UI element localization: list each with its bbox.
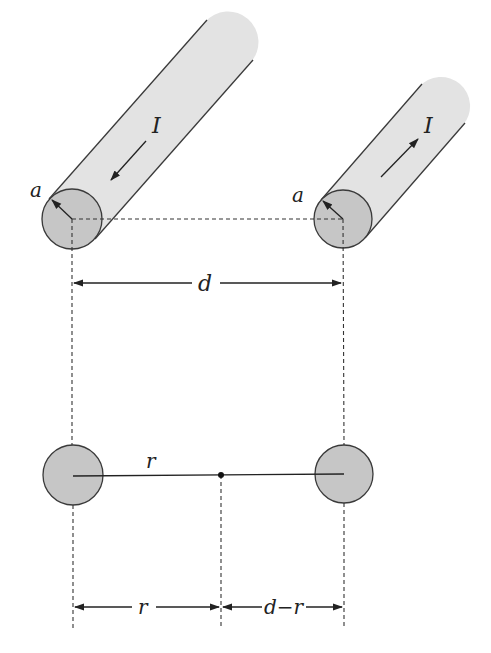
separation-dimension: d: [74, 271, 341, 296]
field-point-distance-label: r: [146, 449, 157, 473]
right-vertical-dashed-line: [343, 219, 344, 445]
cross-section-view: r: [43, 445, 373, 505]
left-current-label: I: [151, 113, 162, 138]
separation-label: d: [198, 271, 212, 296]
left-wire: I a: [30, 12, 258, 250]
bottom-right-span-label: d−r: [264, 595, 305, 619]
left-wire-cross-section: [43, 445, 103, 505]
two-wire-diagram: I a I a d r r: [0, 0, 491, 653]
center-connecting-line: [73, 474, 344, 476]
left-radius-label: a: [30, 178, 42, 202]
bottom-left-span-label: r: [138, 595, 149, 619]
right-radius-label: a: [292, 183, 304, 207]
bottom-dimensions: r d−r: [75, 595, 342, 619]
right-current-label: I: [423, 113, 434, 138]
field-point-dot: [218, 472, 224, 478]
right-wire: I a: [292, 77, 470, 248]
